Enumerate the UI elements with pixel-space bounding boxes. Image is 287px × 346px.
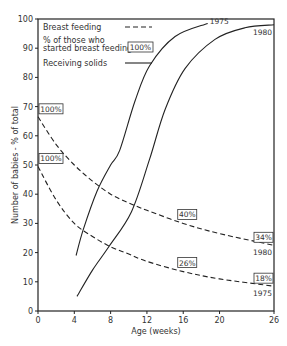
- y-tick-label: 0: [28, 307, 33, 316]
- x-tick-label: 4: [72, 316, 77, 325]
- series-end-label: 1975: [253, 289, 272, 298]
- y-tick-label: 90: [23, 44, 33, 53]
- x-tick-label: 16: [178, 316, 188, 325]
- series-line-breast-feeding-1975: [38, 167, 274, 287]
- x-tick-label: 12: [142, 316, 152, 325]
- annotation-label: 18%: [255, 274, 272, 283]
- series-end-label: 1975: [210, 17, 229, 26]
- chart: 048121620260102030405060708090100 198019…: [0, 0, 287, 346]
- annotation-box: 26%: [178, 258, 197, 268]
- x-tick-label: 0: [35, 316, 40, 325]
- y-tick-label: 100: [18, 15, 33, 24]
- y-axis-title: Number of babies - % of total: [11, 106, 20, 224]
- annotation-box: 100%: [39, 153, 63, 163]
- legend: Breast feeding% of those whostarted brea…: [43, 23, 153, 68]
- y-tick-label: 30: [23, 219, 33, 228]
- y-tick-label: 10: [23, 278, 33, 287]
- annotation-label: 26%: [179, 259, 196, 268]
- x-axis-title: Age (weeks): [131, 327, 180, 336]
- y-tick-label: 70: [23, 103, 33, 112]
- annotation-box: 40%: [178, 209, 197, 219]
- y-tick-label: 40: [23, 190, 33, 199]
- annotations: 100%100%40%26%34%18%: [39, 104, 273, 283]
- annotation-label: 40%: [179, 210, 196, 219]
- series-end-label: 1980: [253, 28, 272, 37]
- annotation-label: 34%: [255, 233, 272, 242]
- annotation-box: 100%: [39, 104, 63, 114]
- legend-label: started breast feeding: [43, 44, 132, 53]
- annotation-box: 18%: [254, 273, 273, 283]
- legend-label: Receiving solids: [43, 59, 107, 68]
- x-tick-label: 8: [108, 316, 113, 325]
- x-tick-label: 20: [214, 316, 224, 325]
- legend-label: Breast feeding: [43, 23, 101, 32]
- legend-box-text: 100%: [130, 43, 151, 52]
- x-tick-label: 26: [269, 316, 279, 325]
- y-tick-label: 50: [23, 161, 33, 170]
- annotation-box: 34%: [254, 232, 273, 242]
- y-tick-label: 20: [23, 249, 33, 258]
- annotation-label: 100%: [40, 105, 61, 114]
- y-tick-label: 60: [23, 132, 33, 141]
- annotation-label: 100%: [40, 154, 61, 163]
- y-tick-label: 80: [23, 73, 33, 82]
- series-end-label: 1980: [253, 248, 272, 257]
